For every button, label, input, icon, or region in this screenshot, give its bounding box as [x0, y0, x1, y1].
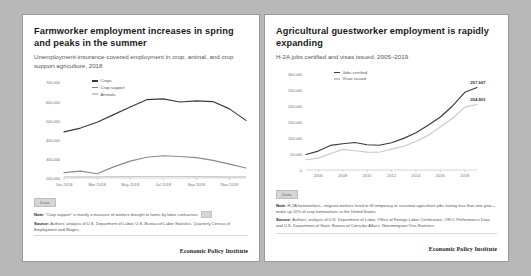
chart-legend-left: CropsCrop supportAnimals: [92, 78, 125, 96]
legend-swatch-icon: [92, 87, 98, 88]
y-tick-label: 200,000: [276, 103, 302, 108]
legend-swatch-icon: [334, 72, 340, 73]
y-tick-label: 600,000: [34, 99, 60, 104]
legend-label: Animals: [101, 92, 116, 97]
legend-swatch-icon: [334, 78, 340, 79]
y-tick-label: 500,000: [34, 118, 60, 123]
y-tick-label: 50,000: [276, 151, 302, 156]
source-label-left: Source:: [34, 221, 49, 226]
chart-svg-left: [34, 76, 250, 194]
x-tick-label: Mar 2018: [88, 182, 105, 187]
legend-item[interactable]: Crops: [92, 78, 125, 83]
note-label-right: Note:: [276, 203, 286, 208]
source-label-right: Source:: [276, 217, 291, 222]
y-tick-label: 300,000: [276, 71, 302, 76]
page-title-right: Agricultural guestworker employment is r…: [276, 25, 497, 49]
legend-label: Jobs certified: [343, 70, 368, 75]
x-tick-label: 2010: [363, 173, 372, 178]
y-tick-label: 0: [276, 167, 302, 172]
legend-item[interactable]: Animals: [92, 92, 125, 97]
x-tick-label: May 2018: [121, 182, 139, 187]
footer-right: Economic Policy Institute: [276, 233, 497, 255]
figure-subtitle-right: H-2A jobs certified and visas issued, 20…: [276, 53, 497, 62]
epi-logo-right: Economic Policy Institute: [429, 246, 497, 252]
legend-swatch-icon: [92, 93, 98, 94]
legend-label: Crops: [101, 78, 112, 83]
chart-note-left: Note: “Crop support” is mostly a measure…: [34, 211, 248, 218]
chart-svg-right: [276, 68, 499, 186]
chart-source-left: Source: Authors' analysis of U.S. Depart…: [34, 221, 248, 233]
y-tick-label: 400,000: [34, 137, 60, 142]
legend-item[interactable]: Jobs certified: [334, 70, 367, 75]
legend-item[interactable]: Visas issued: [334, 76, 367, 81]
x-tick-label: Sep 2018: [188, 182, 206, 187]
x-tick-label: 2012: [387, 173, 396, 178]
x-tick-label: 2014: [411, 173, 420, 178]
footer-left: Economic Policy Institute: [34, 235, 248, 257]
chart-note-right: Note: H-2A farmworkers—migrant workers h…: [276, 203, 497, 215]
x-tick-label: Nov 2018: [221, 182, 239, 187]
y-tick-label: 250,000: [276, 87, 302, 92]
note-text-left: “Crop support” is mostly a measure of wo…: [46, 212, 199, 217]
y-tick-label: 200,000: [34, 176, 60, 181]
data-point-label: 204,801: [470, 97, 486, 102]
y-tick-label: 100,000: [276, 135, 302, 140]
x-tick-label: 2008: [338, 173, 347, 178]
share-icon-left[interactable]: [201, 211, 212, 218]
x-tick-label: Jul 2018: [156, 182, 171, 187]
y-tick-label: 300,000: [34, 157, 60, 162]
x-tick-label: 2018: [460, 173, 469, 178]
note-text-right: H-2A farmworkers—migrant workers hired t…: [276, 203, 496, 214]
figure-subtitle-left: Unemployment-insurance-covered employmen…: [34, 53, 248, 70]
figure-panel-farmworker-employment: Farmworker employment increases in sprin…: [22, 14, 260, 262]
legend-item[interactable]: Crop support: [92, 85, 125, 90]
chart-legend-right: Jobs certifiedVisas issued: [334, 70, 367, 82]
x-tick-label: 2016: [436, 173, 445, 178]
note-label-left: Note:: [34, 212, 44, 217]
source-text-right: Authors' analysis of U.S. Department of …: [276, 217, 491, 228]
chart-h2a-guestworkers: 300,000250,000200,000150,000100,00050,00…: [276, 68, 497, 186]
legend-swatch-icon: [92, 80, 98, 81]
chart-plot-area-right: [276, 68, 497, 186]
chart-source-right: Source: Authors' analysis of U.S. Depart…: [276, 217, 497, 229]
data-button-right[interactable]: Data: [276, 190, 298, 199]
y-tick-label: 700,000: [34, 80, 60, 85]
figure-panel-h2a-guestworkers: Agricultural guestworker employment is r…: [264, 14, 509, 262]
page-title-left: Farmworker employment increases in sprin…: [34, 25, 248, 49]
epi-logo-left: Economic Policy Institute: [180, 248, 248, 254]
chart-farmworker-employment: 700,000600,000500,000400,000300,000200,0…: [34, 76, 248, 194]
data-point-label: 257,667: [470, 80, 486, 85]
x-tick-label: Jan 2018: [56, 182, 73, 187]
screenshot-stage: Farmworker employment increases in sprin…: [0, 0, 531, 276]
source-text-left: Authors' analysis of U.S. Department of …: [34, 221, 230, 232]
x-tick-label: 2006: [314, 173, 323, 178]
data-button-left[interactable]: Data: [34, 198, 56, 207]
chart-plot-area-left: [34, 76, 248, 194]
y-tick-label: 150,000: [276, 119, 302, 124]
legend-label: Crop support: [101, 85, 125, 90]
legend-label: Visas issued: [343, 76, 366, 81]
